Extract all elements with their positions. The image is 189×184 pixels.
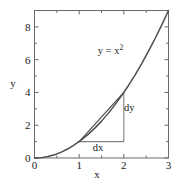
y-axis-title: y — [10, 77, 16, 89]
chart-figure: 0123 02468 y = x2dydx x y — [0, 0, 189, 184]
x-tick-label: 2 — [121, 159, 127, 171]
x-tick-label: 0 — [32, 159, 38, 171]
x-tick-label: 1 — [76, 159, 82, 171]
dy-label: dy — [124, 102, 135, 113]
x-tick-label: 3 — [166, 159, 172, 171]
y-tick-label: 4 — [25, 86, 31, 98]
y-tick-label: 0 — [25, 152, 31, 164]
y-tick-label: 8 — [25, 21, 31, 33]
y-tick-label: 6 — [25, 54, 31, 66]
x-axis-title: x — [94, 168, 100, 180]
y-tick-label: 2 — [25, 119, 31, 131]
dx-label: dx — [93, 142, 104, 153]
parabola-plot: 0123 02468 y = x2dydx x y — [0, 0, 189, 184]
